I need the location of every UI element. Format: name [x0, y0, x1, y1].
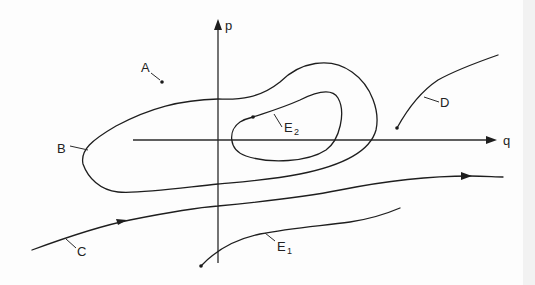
label-C: C — [77, 244, 86, 259]
label-E2-leader — [274, 114, 282, 127]
p-axis-arrow-icon — [214, 19, 222, 30]
curve-D — [395, 55, 498, 130]
label-C-leader — [66, 239, 76, 248]
curve-C — [32, 172, 503, 250]
point-A-dot-icon — [160, 80, 164, 84]
label-D-leader — [424, 97, 439, 102]
q-axis-label: q — [503, 133, 510, 148]
direction-arrow-icon — [116, 219, 127, 225]
label-A: A — [141, 60, 150, 75]
label-B: B — [57, 141, 66, 156]
label-D: D — [440, 95, 449, 110]
p-axis-label: p — [225, 18, 232, 33]
label-B-leader — [70, 146, 88, 150]
diagram-canvas: p q A B E 2 D — [0, 0, 535, 285]
point-E1-dot-icon — [199, 264, 203, 268]
point-E2-dot-icon — [251, 115, 255, 119]
label-E2-main: E — [284, 120, 293, 135]
label-E1-main: E — [277, 239, 286, 254]
point-A — [151, 73, 164, 84]
point-D-dot-icon — [395, 126, 399, 130]
label-E2-sub: 2 — [294, 127, 299, 137]
label-E1-leader — [265, 233, 275, 241]
q-axis-arrow-icon — [486, 136, 497, 144]
curve-B — [83, 63, 377, 193]
phase-diagram: p q A B E 2 D — [0, 0, 535, 285]
label-E1-sub: 1 — [287, 246, 292, 256]
q-axis — [133, 136, 497, 144]
curve-E1 — [199, 208, 400, 268]
p-axis — [214, 19, 222, 263]
direction-arrow-icon — [461, 172, 472, 180]
